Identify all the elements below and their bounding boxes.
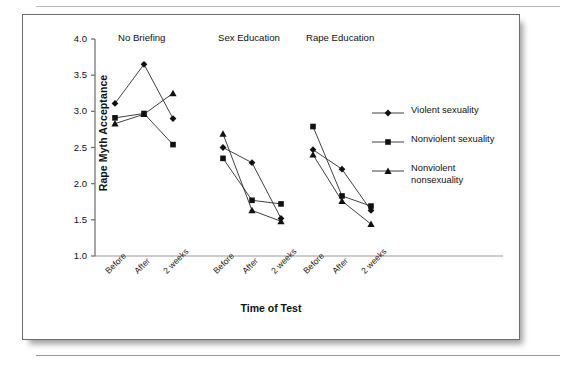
chart-legend: Violent sexualityNonviolent sexualityNon… — [371, 105, 516, 192]
legend-label: Nonviolentnonsexuality — [411, 162, 463, 185]
group-title: Rape Education — [306, 32, 374, 43]
y-tick-label: 4.0 — [57, 34, 87, 44]
figure-page: Rape Myth Acceptance 1.01.52.02.53.03.54… — [0, 0, 564, 368]
legend-item: Nonviolent sexuality — [371, 134, 516, 163]
legend-marker-triangle — [371, 165, 405, 177]
figure-panel: Rape Myth Acceptance 1.01.52.02.53.03.54… — [22, 14, 520, 340]
bottom-horizontal-rule — [36, 355, 560, 356]
y-tick-label: 1.0 — [57, 251, 87, 261]
y-tick-label: 2.0 — [57, 179, 87, 189]
top-horizontal-rule — [36, 6, 560, 7]
legend-item: Violent sexuality — [371, 105, 516, 134]
legend-label: Nonviolent sexuality — [411, 133, 494, 145]
legend-marker-diamond — [371, 107, 405, 119]
y-tick-label: 3.0 — [57, 106, 87, 116]
legend-label: Violent sexuality — [411, 104, 479, 116]
y-axis-title: Rape Myth Acceptance — [97, 48, 109, 218]
y-tick-label: 1.5 — [57, 215, 87, 225]
legend-item: Nonviolentnonsexuality — [371, 163, 516, 192]
group-title: No Briefing — [118, 32, 165, 43]
y-tick-label: 2.5 — [57, 143, 87, 153]
x-axis-title: Time of Test — [23, 302, 519, 314]
y-tick-label: 3.5 — [57, 70, 87, 80]
group-title: Sex Education — [218, 32, 280, 43]
legend-marker-square — [371, 136, 405, 148]
